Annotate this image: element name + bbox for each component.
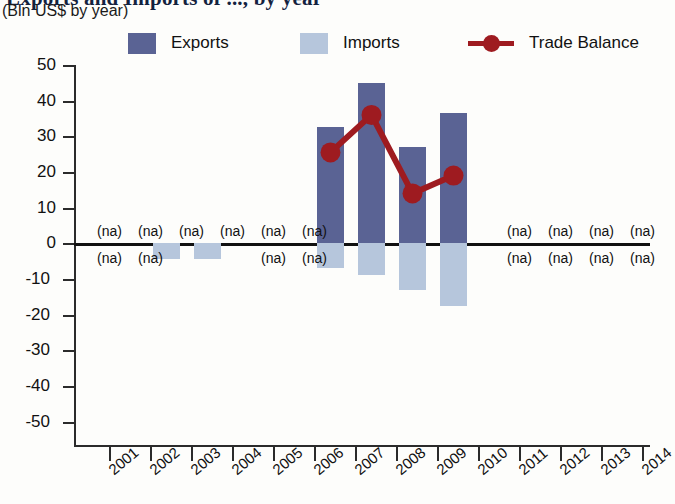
na-above-2006: (na) (294, 223, 335, 239)
y-tick-10 (63, 208, 74, 210)
y-label-40: 40 (0, 92, 56, 109)
legend-label-trade-balance: Trade Balance (529, 33, 639, 53)
trade-balance-point-2008 (362, 105, 382, 125)
y-tick-30 (63, 136, 74, 138)
na-above-2004: (na) (212, 223, 253, 239)
y-tick-minus40 (63, 386, 74, 388)
na-above-2012: (na) (540, 223, 581, 239)
y-tick-minus20 (63, 315, 74, 317)
trade-balance-point-2009 (403, 183, 423, 203)
na-below-2014: (na) (622, 250, 663, 266)
trade-balance-point-2007 (321, 142, 341, 162)
y-label-minus20: -20 (0, 306, 50, 323)
na-above-2013: (na) (581, 223, 622, 239)
y-label-30: 30 (0, 127, 56, 144)
na-below-2013: (na) (581, 250, 622, 266)
imports-swatch-icon (300, 33, 328, 54)
y-label-minus50: -50 (0, 413, 50, 430)
legend-item-trade-balance[interactable]: Trade Balance (468, 30, 639, 56)
y-label-50: 50 (0, 56, 56, 73)
y-label-0: 0 (0, 234, 56, 251)
y-tick-20 (63, 172, 74, 174)
y-tick-minus10 (63, 279, 74, 281)
legend-item-exports[interactable]: Exports (128, 30, 229, 56)
y-label-10: 10 (0, 199, 56, 216)
y-label-minus30: -30 (0, 341, 50, 358)
na-above-2014: (na) (622, 223, 663, 239)
na-above-2002: (na) (130, 223, 171, 239)
na-below-2006: (na) (294, 250, 335, 266)
plot-area: 50 40 30 20 10 0 -10 -20 -30 -40 -50 (74, 65, 650, 445)
y-tick-40 (63, 101, 74, 103)
trade-balance-line-marker-icon (468, 33, 514, 54)
na-above-2005: (na) (253, 223, 294, 239)
chart-subtitle: (Bln US$ by year) (2, 2, 128, 20)
chart-legend: Exports Imports Trade Balance (0, 30, 657, 56)
na-below-2005: (na) (253, 250, 294, 266)
y-label-20: 20 (0, 163, 56, 180)
x-axis-line (74, 445, 650, 447)
y-label-minus40: -40 (0, 377, 50, 394)
y-tick-minus30 (63, 350, 74, 352)
legend-item-imports[interactable]: Imports (300, 30, 400, 56)
na-below-2001: (na) (89, 250, 130, 266)
na-above-2011: (na) (499, 223, 540, 239)
y-label-minus10: -10 (0, 270, 50, 287)
y-tick-50 (63, 65, 74, 67)
na-above-2001: (na) (89, 223, 130, 239)
legend-label-exports: Exports (171, 33, 229, 53)
exports-swatch-icon (128, 33, 156, 54)
na-below-2002: (na) (130, 250, 171, 266)
na-below-2012: (na) (540, 250, 581, 266)
na-below-2011: (na) (499, 250, 540, 266)
trade-balance-point-2010 (444, 166, 464, 186)
y-tick-0 (63, 243, 74, 245)
y-tick-minus50 (63, 422, 74, 424)
na-above-2003: (na) (171, 223, 212, 239)
legend-label-imports: Imports (343, 33, 400, 53)
